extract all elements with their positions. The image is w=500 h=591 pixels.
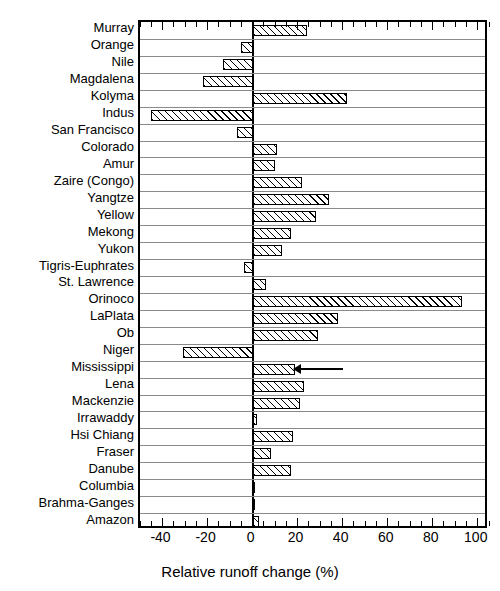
y-axis-label: Orinoco: [0, 292, 134, 305]
minor-tick: [398, 22, 399, 27]
minor-tick: [275, 521, 276, 526]
bar: [253, 431, 294, 442]
y-axis-label: Yangtze: [0, 191, 134, 204]
y-axis-label: Ob: [0, 326, 134, 339]
minor-tick: [489, 521, 490, 526]
y-axis-label: Orange: [0, 38, 134, 51]
minor-tick: [218, 22, 219, 27]
row-separator: [140, 378, 485, 379]
row-separator: [140, 208, 485, 209]
bar: [253, 482, 255, 493]
bar: [253, 194, 330, 205]
row-separator: [140, 310, 485, 311]
x-tick-label: 40: [333, 530, 349, 544]
major-tick: [342, 518, 344, 526]
row-separator: [140, 141, 485, 142]
y-axis-label: Mackenzie: [0, 394, 134, 407]
minor-tick: [263, 22, 264, 27]
bar: [253, 25, 307, 36]
y-axis-label: Tigris-Euphrates: [0, 259, 134, 272]
y-axis-label: St. Lawrence: [0, 275, 134, 288]
y-axis-label: Murray: [0, 21, 134, 34]
major-tick: [162, 518, 164, 526]
bar: [253, 398, 300, 409]
major-tick: [432, 22, 434, 30]
row-separator: [140, 361, 485, 362]
bar: [253, 499, 255, 510]
x-tick-label: 0: [247, 530, 255, 544]
major-tick: [297, 22, 299, 30]
minor-tick: [140, 521, 141, 526]
row-separator: [140, 90, 485, 91]
plot-area: [138, 20, 487, 528]
row-separator: [140, 344, 485, 345]
bar: [253, 448, 271, 459]
y-axis-label: Hsi Chiang: [0, 428, 134, 441]
minor-tick: [185, 22, 186, 27]
minor-tick: [196, 521, 197, 526]
bar: [244, 262, 253, 273]
y-axis-label: Amur: [0, 157, 134, 170]
bar: [253, 228, 291, 239]
y-axis-label: Magdalena: [0, 72, 134, 85]
minor-tick: [410, 521, 411, 526]
row-separator: [140, 276, 485, 277]
minor-tick: [376, 22, 377, 27]
major-tick: [477, 518, 479, 526]
minor-tick: [443, 22, 444, 27]
minor-tick: [331, 22, 332, 27]
x-tick-label: 100: [464, 530, 487, 544]
major-tick: [387, 518, 389, 526]
minor-tick: [410, 22, 411, 27]
minor-tick: [376, 521, 377, 526]
bar: [223, 59, 252, 70]
major-tick: [477, 22, 479, 30]
x-tick-label: 80: [423, 530, 439, 544]
minor-tick: [263, 521, 264, 526]
row-separator: [140, 225, 485, 226]
minor-tick: [308, 521, 309, 526]
bar: [253, 245, 282, 256]
row-separator: [140, 107, 485, 108]
y-axis-label: Yukon: [0, 242, 134, 255]
y-axis-label: Lena: [0, 377, 134, 390]
row-separator: [140, 56, 485, 57]
minor-tick: [455, 521, 456, 526]
bar: [151, 110, 252, 121]
y-axis-label: Yellow: [0, 208, 134, 221]
minor-tick: [286, 521, 287, 526]
y-axis-label: Brahma-Ganges: [0, 496, 134, 509]
y-axis-label: Colorado: [0, 140, 134, 153]
minor-tick: [173, 22, 174, 27]
minor-tick: [173, 521, 174, 526]
bar: [203, 76, 253, 87]
row-separator: [140, 462, 485, 463]
minor-tick: [241, 521, 242, 526]
y-axis-label: Mekong: [0, 225, 134, 238]
bar: [253, 364, 296, 375]
minor-tick: [275, 22, 276, 27]
row-separator: [140, 293, 485, 294]
minor-tick: [320, 22, 321, 27]
y-axis-labels: MurrayOrangeNileMagdalenaKolymaIndusSan …: [0, 20, 134, 528]
y-axis-label: Amazon: [0, 513, 134, 526]
y-axis-label: Danube: [0, 462, 134, 475]
minor-tick: [320, 521, 321, 526]
x-axis-title: Relative runoff change (%): [0, 563, 500, 580]
bar: [253, 279, 267, 290]
y-axis-label: Indus: [0, 106, 134, 119]
bar: [253, 414, 258, 425]
row-separator: [140, 259, 485, 260]
x-tick-label: -20: [195, 530, 215, 544]
row-separator: [140, 479, 485, 480]
row-separator: [140, 191, 485, 192]
bar: [253, 211, 316, 222]
row-separator: [140, 242, 485, 243]
bar: [253, 330, 318, 341]
bar: [253, 465, 291, 476]
bar: [253, 144, 278, 155]
bar: [241, 42, 252, 53]
minor-tick: [353, 22, 354, 27]
row-separator: [140, 73, 485, 74]
minor-tick: [421, 22, 422, 27]
